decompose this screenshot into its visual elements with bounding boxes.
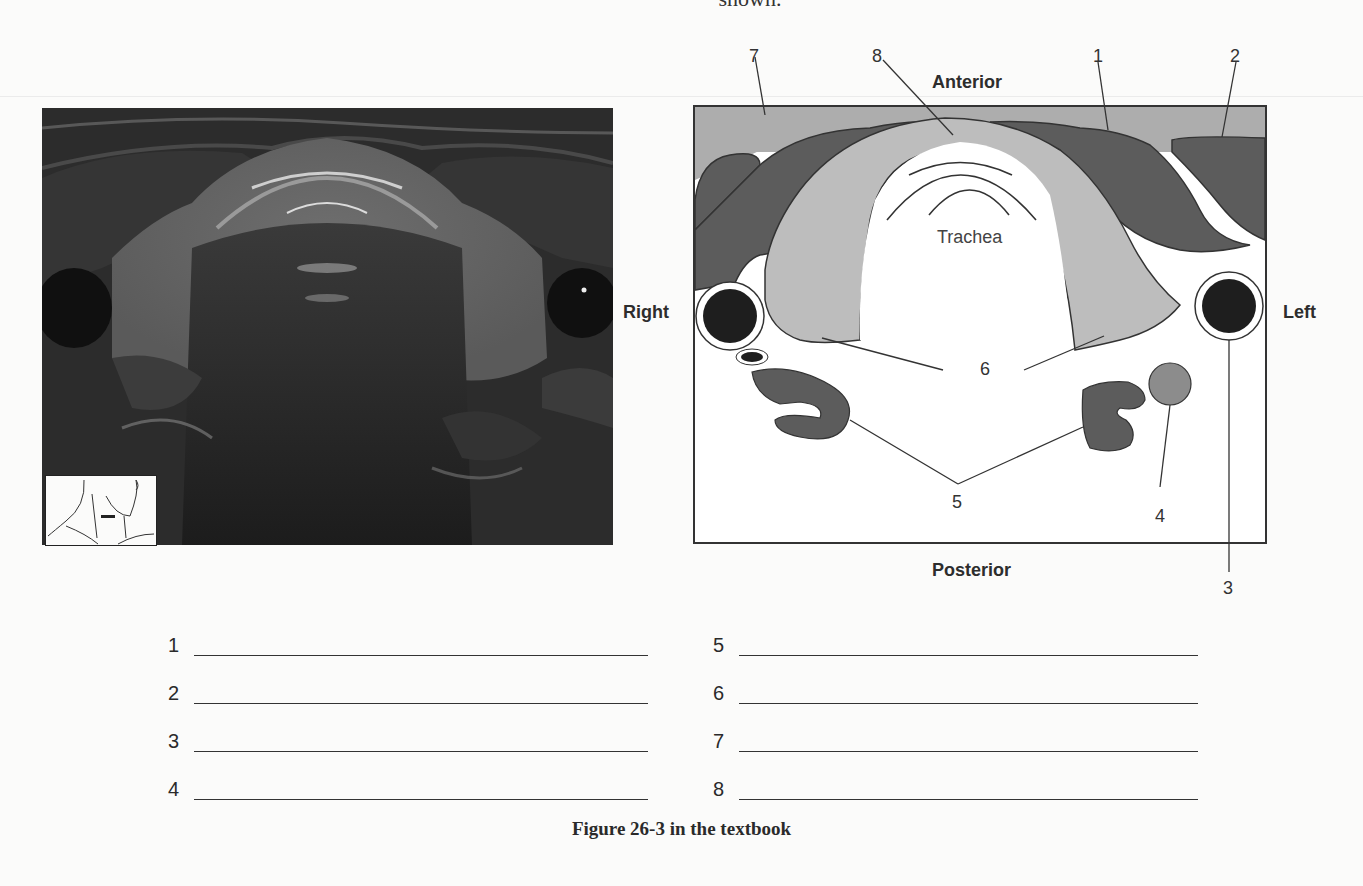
- callout-5: 5: [952, 492, 962, 513]
- anterior-label: Anterior: [932, 72, 1002, 93]
- callout-4: 4: [1155, 506, 1165, 527]
- answer-row-2: 2: [168, 676, 648, 704]
- thyroid-cross-section-diagram: 7 8 1 2 6 5 4 3 Trachea Anterior Posteri…: [660, 40, 1300, 610]
- neck-transducer-position-icon: [45, 475, 157, 546]
- answer-row-5: 5: [713, 628, 1198, 656]
- answer-blank-3[interactable]: [194, 731, 648, 752]
- answer-blank-5[interactable]: [739, 635, 1198, 656]
- answer-blank-6[interactable]: [739, 683, 1198, 704]
- answer-number: 5: [713, 634, 739, 656]
- answer-row-6: 6: [713, 676, 1198, 704]
- trachea-label: Trachea: [937, 227, 1002, 248]
- callout-7: 7: [749, 46, 759, 67]
- posterior-label: Posterior: [932, 560, 1011, 581]
- answer-blank-8[interactable]: [739, 779, 1198, 800]
- answer-column-right: 5 6 7 8: [713, 628, 1198, 800]
- answer-row-8: 8: [713, 772, 1198, 800]
- callout-6: 6: [980, 359, 990, 380]
- callout-8: 8: [872, 46, 882, 67]
- answer-number: 3: [168, 730, 194, 752]
- answer-number: 8: [713, 778, 739, 800]
- answer-blank-1[interactable]: [194, 635, 648, 656]
- answer-number: 4: [168, 778, 194, 800]
- callout-3: 3: [1223, 578, 1233, 599]
- answer-number: 1: [168, 634, 194, 656]
- callout-1: 1: [1093, 46, 1103, 67]
- answer-column-left: 1 2 3 4: [168, 628, 648, 800]
- answer-row-7: 7: [713, 724, 1198, 752]
- callout-2: 2: [1230, 46, 1240, 67]
- answer-blank-7[interactable]: [739, 731, 1198, 752]
- answer-number: 2: [168, 682, 194, 704]
- left-label: Left: [1283, 302, 1316, 323]
- answer-row-4: 4: [168, 772, 648, 800]
- answer-number: 6: [713, 682, 739, 704]
- right-label: Right: [623, 302, 669, 323]
- answer-blank-4[interactable]: [194, 779, 648, 800]
- figure-caption: Figure 26-3 in the textbook: [0, 818, 1363, 840]
- answer-row-1: 1: [168, 628, 648, 656]
- preceding-text-fragment: shown.: [600, 0, 900, 12]
- answer-number: 7: [713, 730, 739, 752]
- answer-blank-2[interactable]: [194, 683, 648, 704]
- answer-row-3: 3: [168, 724, 648, 752]
